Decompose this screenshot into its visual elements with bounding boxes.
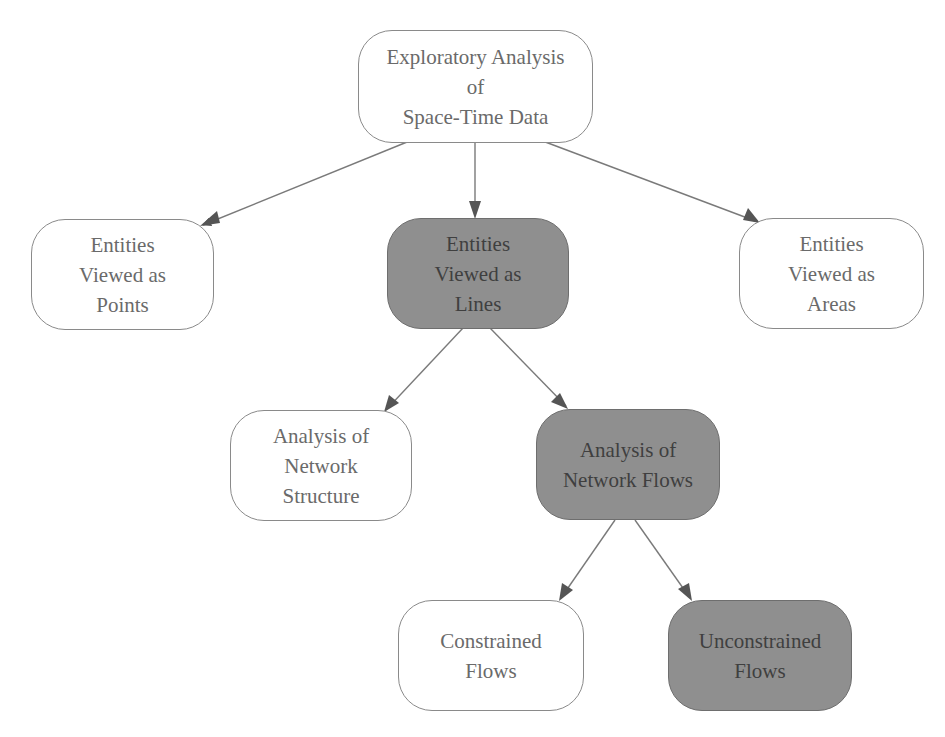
node-label: Entities Viewed as Areas (788, 229, 875, 319)
arrowhead-constrained (559, 583, 573, 601)
node-network-flows: Analysis of Network Flows (536, 409, 720, 520)
edge-root-points (203, 140, 412, 225)
edge-flows-unconstrained (635, 520, 690, 598)
node-entities-points: Entities Viewed as Points (31, 219, 214, 330)
node-exploratory-analysis: Exploratory Analysis of Space-Time Data (358, 30, 593, 143)
edge-lines-structure (386, 328, 463, 410)
node-constrained-flows: Constrained Flows (398, 600, 584, 711)
arrowhead-unconstrained (678, 583, 692, 601)
node-entities-lines: Entities Viewed as Lines (387, 218, 569, 329)
arrowhead-flows (551, 393, 568, 409)
arrowhead-lines (469, 201, 481, 219)
node-label: Constrained Flows (440, 626, 541, 686)
node-label: Unconstrained Flows (699, 626, 821, 686)
node-label: Analysis of Network Structure (273, 421, 369, 511)
node-label: Analysis of Network Flows (563, 435, 693, 495)
edge-lines-flows (490, 328, 566, 406)
node-entities-areas: Entities Viewed as Areas (739, 218, 924, 329)
node-label: Exploratory Analysis of Space-Time Data (387, 42, 565, 132)
node-label: Entities Viewed as Lines (435, 229, 522, 319)
edge-flows-constrained (561, 520, 615, 598)
node-network-structure: Analysis of Network Structure (230, 410, 412, 521)
node-label: Entities Viewed as Points (79, 230, 166, 320)
arrowhead-points (200, 211, 220, 226)
node-unconstrained-flows: Unconstrained Flows (668, 600, 852, 711)
edge-root-areas (540, 140, 758, 222)
